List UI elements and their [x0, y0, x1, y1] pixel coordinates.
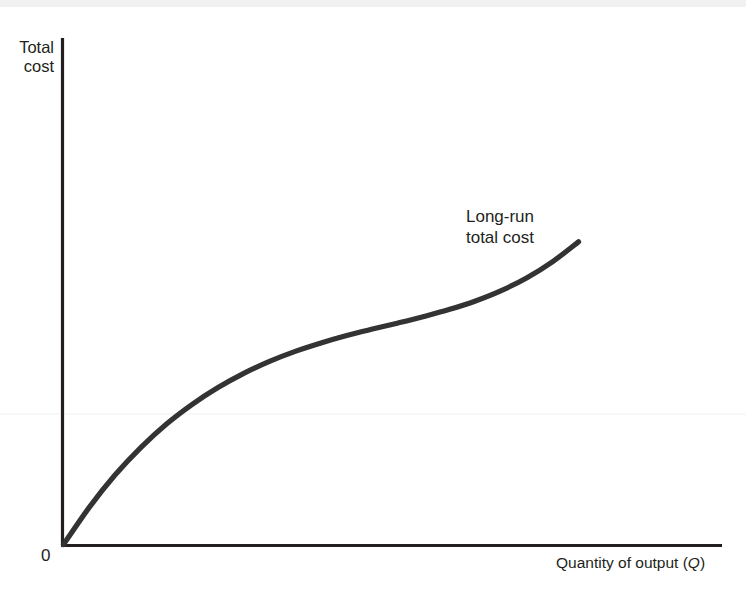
y-axis-title-line2: cost — [24, 57, 54, 75]
long-run-total-cost-curve-path — [64, 242, 579, 545]
x-axis-title-variable: Q — [688, 554, 700, 571]
chart-canvas — [0, 0, 746, 591]
long-run-total-cost-curve — [0, 0, 300, 544]
origin-label: 0 — [41, 546, 50, 566]
curve-label-line2: total cost — [466, 228, 534, 247]
curve-annotation-long-run-total-cost: Long-runtotal cost — [448, 206, 552, 249]
curve-label-line1: Long-run — [466, 207, 534, 226]
x-axis-title: Quantity of output (Q) — [556, 554, 705, 572]
y-axis-title: Totalcost — [6, 38, 54, 77]
x-axis-title-text: Quantity of output ( — [556, 554, 688, 571]
figure-long-run-total-cost: Totalcost 0 Quantity of output (Q) Long-… — [0, 0, 746, 591]
y-axis-title-line1: Total — [19, 38, 54, 56]
x-axis-title-close: ) — [700, 554, 705, 571]
